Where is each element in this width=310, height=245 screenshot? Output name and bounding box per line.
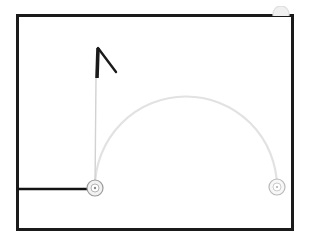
end-node[interactable]: [269, 179, 285, 195]
trajectory-arc: [95, 96, 277, 188]
pivot-node-center-dot-icon: [94, 187, 96, 189]
clipped-ghost-node-group: [273, 6, 289, 22]
velocity-vector-head: [98, 48, 116, 72]
diagram-canvas: [0, 0, 310, 245]
pivot-node[interactable]: [87, 180, 103, 196]
ghost-node-icon: [273, 6, 289, 22]
pendulum-rod: [95, 78, 96, 188]
end-node-center-dot-icon: [276, 186, 278, 188]
diagram-stage: [0, 0, 310, 245]
velocity-vector-shaft: [97, 48, 98, 78]
